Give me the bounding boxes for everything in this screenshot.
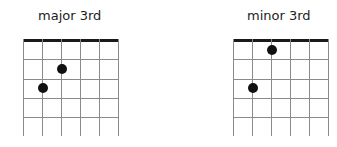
finger-dot <box>38 83 48 93</box>
diagram-title: minor 3rd <box>247 8 311 23</box>
string-line <box>80 39 81 136</box>
string-line <box>23 39 24 136</box>
fret-line <box>233 117 329 118</box>
diagram-title: major 3rd <box>38 8 101 23</box>
fret-line <box>233 98 329 99</box>
string-line <box>118 39 119 136</box>
finger-dot <box>248 83 258 93</box>
string-line <box>61 39 62 136</box>
fret-line <box>23 79 119 80</box>
nut <box>23 39 119 42</box>
finger-dot <box>267 45 277 55</box>
fret-line <box>23 117 119 118</box>
string-line <box>328 39 329 136</box>
nut <box>233 39 329 42</box>
string-line <box>99 39 100 136</box>
fret-line <box>23 59 119 60</box>
string-line <box>233 39 234 136</box>
string-line <box>290 39 291 136</box>
fret-line <box>23 98 119 99</box>
string-line <box>309 39 310 136</box>
fret-line <box>233 59 329 60</box>
fret-line <box>233 79 329 80</box>
finger-dot <box>57 64 67 74</box>
